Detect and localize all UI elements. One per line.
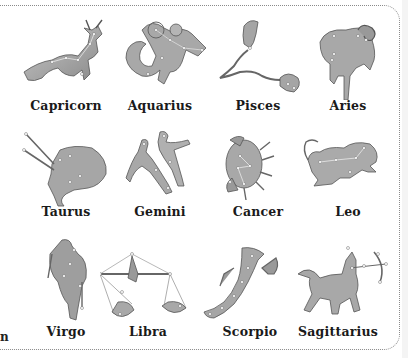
cut-off-text: n [0, 330, 9, 344]
aquarius-figure-icon [112, 0, 212, 100]
constellation-label: Sagittarius [290, 324, 386, 339]
pisces-figure-icon [210, 0, 306, 100]
constellation-label: Aries [300, 98, 396, 113]
constellation-pisces: Pisces [210, 0, 306, 118]
constellation-label: Scorpio [202, 324, 298, 339]
constellation-gemini: Gemini [112, 120, 208, 238]
sagittarius-figure-icon [290, 238, 396, 338]
constellation-scorpio: Scorpio [202, 238, 298, 356]
constellation-label: Aquarius [112, 98, 208, 113]
constellation-label: Leo [300, 204, 396, 219]
scorpio-figure-icon [202, 238, 298, 338]
constellation-capricorn: Capricorn [18, 0, 114, 118]
aries-figure-icon [300, 0, 396, 100]
constellation-libra: Libra [100, 238, 196, 356]
constellation-aries: Aries [300, 0, 396, 118]
constellation-label: Cancer [210, 204, 306, 219]
constellation-label: Taurus [18, 204, 114, 219]
constellation-aquarius: Aquarius [112, 0, 208, 118]
libra-figure-icon [100, 238, 200, 338]
constellation-sagittarius: Sagittarius [290, 238, 386, 356]
constellation-label: Libra [100, 324, 196, 339]
capricorn-figure-icon [18, 0, 114, 100]
constellation-taurus: Taurus [18, 120, 114, 238]
constellation-cancer: Cancer [210, 120, 306, 238]
constellation-label: Gemini [112, 204, 208, 219]
textbook-page: n Capricorn [0, 0, 408, 358]
page-edge [402, 0, 408, 358]
constellation-leo: Leo [300, 120, 396, 238]
constellation-label: Pisces [210, 98, 306, 113]
constellation-label: Capricorn [18, 98, 114, 113]
